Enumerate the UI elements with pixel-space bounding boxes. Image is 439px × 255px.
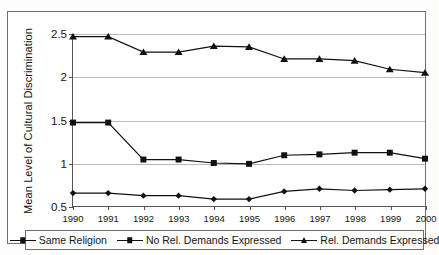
x-tick-label: 1997 [310,213,331,224]
y-axis-title-label: Mean Level of Cultural Discrimination [22,28,34,214]
legend-entry[interactable]: No Rel. Demands Expressed [117,234,281,246]
data-point [211,196,217,202]
y-tick-label: 1 [61,158,67,170]
legend-key-marker [301,237,307,243]
data-point [422,156,428,162]
data-point [281,188,287,194]
data-point [387,150,393,156]
data-point [316,151,322,157]
series-diamond [70,186,428,203]
x-tick-mark [285,206,286,210]
diamond-marker-icon [10,235,36,246]
x-tick-mark [426,206,427,210]
data-point [352,150,358,156]
triangle-marker-icon [291,235,317,246]
data-point [70,120,76,126]
x-tick-label: 1996 [274,213,295,224]
x-tick-label: 1990 [62,213,83,224]
x-tick-mark [108,206,109,210]
x-tick-mark [391,206,392,210]
legend-label: Rel. Demands Expressed [320,234,439,246]
y-tick-label: 2.5 [51,28,67,40]
legend-entry[interactable]: Same Religion [10,234,107,246]
x-tick-label: 1992 [133,213,154,224]
y-tick-label: 0.5 [51,201,67,213]
chart-legend: Same ReligionNo Rel. Demands ExpressedRe… [25,230,424,250]
data-point [281,152,287,158]
legend-entry[interactable]: Rel. Demands Expressed [291,234,439,246]
series-line [73,123,425,164]
data-point [176,157,182,163]
x-tick-mark [144,206,145,210]
x-tick-label: 1993 [168,213,189,224]
data-point [422,186,428,192]
x-tick-mark [250,206,251,210]
data-point [105,190,111,196]
series-line [73,37,425,73]
square-marker-icon [117,235,143,246]
data-point [246,161,252,167]
legend-key-marker [127,237,133,243]
series-square [70,120,428,167]
x-tick-mark [214,206,215,210]
data-point [175,192,181,198]
data-point [351,187,357,193]
series-plot [73,34,425,206]
legend-label: Same Religion [39,234,107,246]
data-point [140,157,146,163]
legend-key-marker [20,237,26,243]
plot-area: 0.511.522.5 1990199119921993199419951996… [72,34,425,207]
x-tick-mark [320,206,321,210]
legend-label: No Rel. Demands Expressed [146,234,281,246]
x-tick-label: 1999 [380,213,401,224]
x-tick-mark [179,206,180,210]
data-point [70,190,76,196]
data-point [316,186,322,192]
x-tick-label: 2000 [415,213,436,224]
x-tick-mark [73,206,74,210]
x-tick-label: 1994 [204,213,225,224]
x-tick-label: 1991 [98,213,119,224]
y-tick-label: 2 [61,71,67,83]
chart-outer-frame: Mean Level of Cultural Discrimination 0.… [7,11,426,244]
data-point [105,120,111,126]
x-tick-label: 1998 [345,213,366,224]
series-triangle [69,33,429,76]
y-tick-label: 1.5 [51,115,67,127]
data-point [246,196,252,202]
x-tick-label: 1995 [239,213,260,224]
data-point [387,186,393,192]
data-point [140,192,146,198]
y-axis-title: Mean Level of Cultural Discrimination [20,34,36,207]
x-tick-mark [355,206,356,210]
data-point [211,160,217,166]
